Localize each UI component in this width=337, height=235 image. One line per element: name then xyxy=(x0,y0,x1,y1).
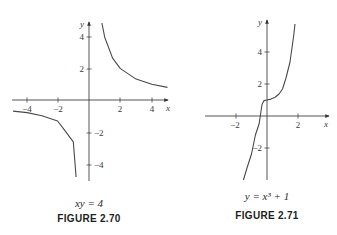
y-tick-label: −4 xyxy=(94,160,104,170)
y-axis-label: y xyxy=(79,19,84,29)
x-axis-label: x xyxy=(165,103,170,113)
y-axis-label: y xyxy=(257,17,262,27)
hyperbola-branch-negative xyxy=(13,111,76,177)
cubic-curve xyxy=(243,24,295,180)
x-tick-label: −2 xyxy=(53,104,63,114)
y-tick-label: 4 xyxy=(258,47,263,57)
figure-2-71-equation: y = x³ + 1 xyxy=(197,190,337,202)
x-tick-label: 2 xyxy=(118,104,123,114)
y-tick-label: 2 xyxy=(80,64,85,74)
hyperbola-branch-positive xyxy=(102,23,168,87)
figure-2-70-label: FIGURE 2.70 xyxy=(19,213,159,224)
x-tick-label: −2 xyxy=(230,120,240,130)
x-axis-label: x xyxy=(323,119,328,129)
x-tick-label: 4 xyxy=(150,104,155,114)
figure-2-70-equation: xy = 4 xyxy=(19,197,159,209)
figure-2-71-plot: −2 2 4 2 −2 x y xyxy=(205,17,329,180)
figure-2-70-plot: −4 −2 2 4 4 2 −2 −4 x y xyxy=(12,19,170,181)
figure-2-71-label: FIGURE 2.71 xyxy=(197,210,337,221)
x-tick-label: 2 xyxy=(296,120,301,130)
y-tick-label: 2 xyxy=(258,79,263,89)
y-tick-label: 4 xyxy=(80,32,85,42)
y-tick-label: −2 xyxy=(94,128,104,138)
